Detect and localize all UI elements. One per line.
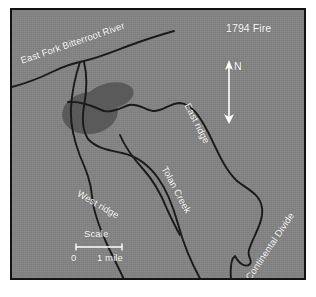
scale-bar-min-label: 0 bbox=[71, 253, 76, 263]
map-plate: 1794 Fire East Fork Bitterroot River Eas… bbox=[10, 8, 306, 280]
scale-bar: Scale 0 1 mile bbox=[64, 229, 144, 265]
map-title: 1794 Fire bbox=[226, 23, 271, 33]
north-arrow-letter: N bbox=[234, 61, 242, 71]
scale-bar-rule bbox=[74, 243, 124, 251]
scale-bar-caption: Scale bbox=[84, 229, 108, 239]
scale-bar-max-label: 1 mile bbox=[97, 253, 123, 263]
fire-history-map-figure: 1794 Fire East Fork Bitterroot River Eas… bbox=[0, 0, 316, 297]
